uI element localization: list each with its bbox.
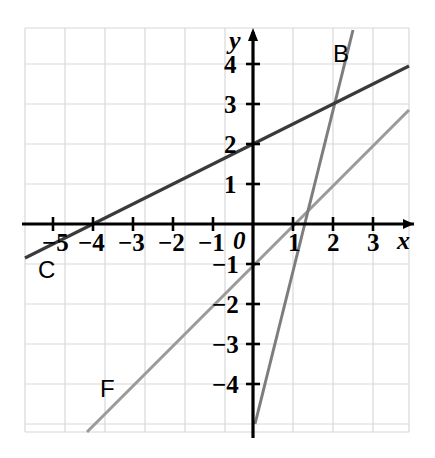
ytick-label-pos3: 3 xyxy=(224,92,237,117)
xtick-label-neg3: −3 xyxy=(118,230,145,255)
line-label-b: B xyxy=(333,42,349,66)
x-axis-label: x xyxy=(397,228,410,254)
line-label-c: C xyxy=(38,258,55,282)
ytick-label-pos2: 2 xyxy=(224,132,237,157)
line-label-f: F xyxy=(100,377,115,401)
origin-label: 0 xyxy=(233,228,246,253)
graph-canvas: −5 −4 −3 −2 −1 1 2 3 0 4 3 2 1 −1 −2 −3 … xyxy=(0,0,435,458)
y-axis-arrow xyxy=(248,28,258,41)
y-axis xyxy=(248,28,258,438)
xtick-label-neg2: −2 xyxy=(158,230,185,255)
y-axis-label: y xyxy=(229,28,241,54)
ytick-label-neg1: −1 xyxy=(212,252,239,277)
ytick-label-pos1: 1 xyxy=(224,172,237,197)
xtick-label-pos1: 1 xyxy=(288,230,301,255)
ytick-label-neg2: −2 xyxy=(212,292,239,317)
x-axis xyxy=(22,219,414,229)
line-b xyxy=(255,30,353,424)
xtick-label-pos3: 3 xyxy=(367,230,380,255)
ytick-label-neg4: −4 xyxy=(212,372,239,397)
ytick-label-pos4: 4 xyxy=(224,52,237,77)
xtick-label-neg5: −5 xyxy=(42,230,69,255)
ytick-label-neg3: −3 xyxy=(212,332,239,357)
xtick-label-neg4: −4 xyxy=(78,230,105,255)
xtick-label-pos2: 2 xyxy=(327,230,340,255)
